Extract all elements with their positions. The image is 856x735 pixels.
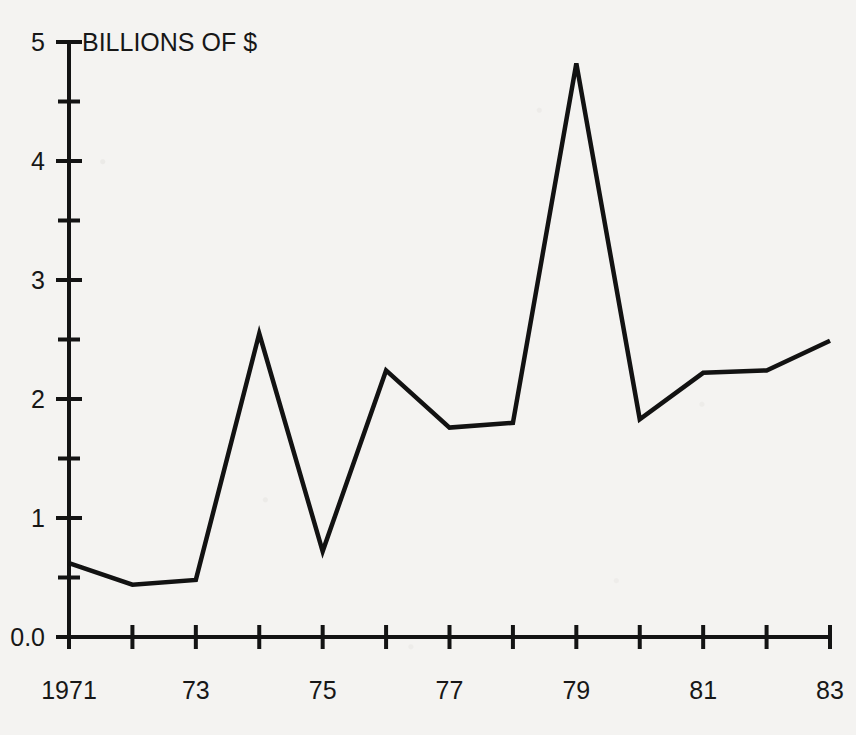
y-axis: 0.012345 xyxy=(10,28,82,651)
y-tick-label: 2 xyxy=(31,385,45,413)
x-tick-label: 81 xyxy=(689,676,717,704)
y-tick-label: 1 xyxy=(31,504,45,532)
x-tick-label: 73 xyxy=(182,676,210,704)
x-tick-label: 75 xyxy=(309,676,337,704)
chart-container: 0.012345 1971737577798183 BILLIONS OF $ xyxy=(0,0,856,735)
y-tick-label: 3 xyxy=(31,266,45,294)
x-tick-label: 83 xyxy=(816,676,844,704)
y-tick-label: 4 xyxy=(31,147,45,175)
data-series-line xyxy=(69,63,830,584)
y-tick-label: 0.0 xyxy=(10,623,45,651)
y-tick-label: 5 xyxy=(31,28,45,56)
chart-title: BILLIONS OF $ xyxy=(82,28,257,56)
x-tick-label: 79 xyxy=(562,676,590,704)
series-polyline xyxy=(69,63,830,584)
x-axis: 1971737577798183 xyxy=(41,625,844,704)
line-chart: 0.012345 1971737577798183 BILLIONS OF $ xyxy=(0,0,856,735)
x-tick-label: 77 xyxy=(436,676,464,704)
x-tick-label: 1971 xyxy=(41,676,97,704)
